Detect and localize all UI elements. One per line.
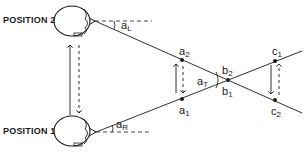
head-position-1-icon <box>54 116 96 146</box>
angle-T-label: aT <box>197 75 208 89</box>
point-b <box>226 78 230 82</box>
position-2-label: POSITION 2 <box>3 15 56 25</box>
label-a1: a1 <box>179 104 190 118</box>
angle-T-arc <box>216 72 218 88</box>
diagram-canvas: POSITION 2 POSITION 1 aL aR aT a2 a1 b2 … <box>0 0 304 156</box>
point-c1 <box>273 59 277 63</box>
point-c2 <box>273 98 277 102</box>
point-a2 <box>180 58 184 62</box>
label-c1: c1 <box>272 45 283 59</box>
label-c2: c2 <box>271 105 282 119</box>
point-a1 <box>180 97 184 101</box>
label-b1: b1 <box>222 85 233 99</box>
position-1-label: POSITION 1 <box>3 126 56 136</box>
angle-R-arc <box>112 125 113 132</box>
label-b2: b2 <box>222 64 233 78</box>
label-a2: a2 <box>179 45 190 59</box>
head-position-2-icon <box>54 6 95 36</box>
angle-L-arc <box>114 21 115 29</box>
